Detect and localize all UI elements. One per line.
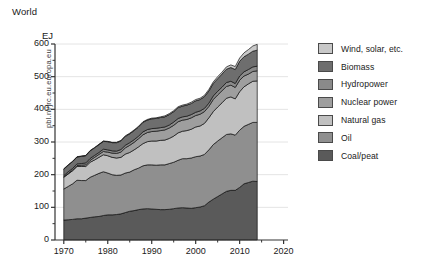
legend-item-label: Biomass (341, 62, 374, 72)
stacked-area-svg (55, 44, 288, 240)
y-tick-label: 300 (21, 136, 49, 146)
legend-item-label: Nuclear power (341, 97, 397, 107)
watermark-text: pbl.nl/jrc.eu.europa.eu (44, 49, 53, 128)
legend-item-biomass[interactable]: Biomass (318, 58, 424, 76)
legend-swatch-icon (318, 79, 333, 90)
legend-swatch-icon (318, 61, 333, 72)
chart-legend: Wind, solar, etc.BiomassHydropowerNuclea… (318, 40, 424, 165)
legend-swatch-icon (318, 115, 333, 126)
chart-figure: World EJ pbl.nl/jrc.eu.europa.eu 0100200… (0, 0, 427, 272)
legend-item-label: Coal/peat (341, 151, 378, 161)
legend-item-label: Natural gas (341, 115, 386, 125)
y-tick-label: 100 (21, 201, 49, 211)
legend-swatch-icon (318, 97, 333, 108)
plot-area (55, 44, 288, 240)
legend-item-oil[interactable]: Oil (318, 129, 424, 147)
legend-item-natural-gas[interactable]: Natural gas (318, 111, 424, 129)
legend-item-label: Hydropower (341, 79, 388, 89)
legend-item-hydropower[interactable]: Hydropower (318, 76, 424, 94)
y-tick-label: 600 (21, 38, 49, 48)
y-tick-label: 500 (21, 71, 49, 81)
y-tick-label: 0 (21, 234, 49, 244)
x-tick-label: 2010 (223, 246, 257, 256)
legend-item-label: Oil (341, 133, 352, 143)
legend-item-wind-solar[interactable]: Wind, solar, etc. (318, 40, 424, 58)
x-tick-label: 1970 (47, 246, 81, 256)
x-tick-label: 1980 (91, 246, 125, 256)
legend-swatch-icon (318, 150, 333, 161)
legend-item-label: Wind, solar, etc. (341, 44, 403, 54)
legend-item-coal-peat[interactable]: Coal/peat (318, 147, 424, 165)
x-tick-label: 2000 (179, 246, 213, 256)
legend-swatch-icon (318, 132, 333, 143)
page-title: World (12, 6, 37, 17)
y-tick-label: 400 (21, 103, 49, 113)
x-tick-label: 2020 (267, 246, 301, 256)
y-tick-label: 200 (21, 169, 49, 179)
legend-swatch-icon (318, 43, 333, 54)
x-tick-label: 1990 (135, 246, 169, 256)
legend-item-nuclear-power[interactable]: Nuclear power (318, 93, 424, 111)
